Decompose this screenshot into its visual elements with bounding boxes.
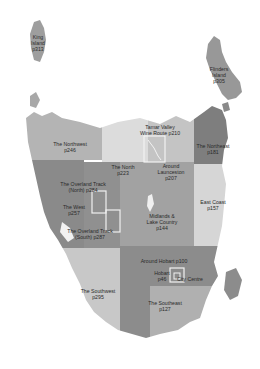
label-line: p181 xyxy=(197,149,230,155)
label-the-north: The North p223 xyxy=(111,164,134,176)
label-east-coast: East Coast p157 xyxy=(200,199,225,211)
label-line: p207 xyxy=(158,175,185,181)
label-overland-north: The Overland Track (North) p284 xyxy=(60,181,106,193)
islet xyxy=(30,92,40,108)
label-line: (South) p287 xyxy=(67,234,113,240)
label-hobart: Hobart p46 xyxy=(154,270,170,282)
label-line: p157 xyxy=(200,205,225,211)
islet xyxy=(224,268,242,300)
region-around-hobart-lower[interactable] xyxy=(120,286,150,346)
label-around-launceston: Around Launceston p207 xyxy=(158,163,185,181)
label-tamar-valley: Tamar Valley Wine Route p210 xyxy=(140,124,180,136)
label-line: p246 xyxy=(53,147,87,153)
label-line: p46 xyxy=(154,276,170,282)
label-line: Around Hobart p100 xyxy=(141,258,188,264)
label-line: p257 xyxy=(63,210,85,216)
label-city-centre: City Centre xyxy=(177,276,203,282)
label-line: (North) p284 xyxy=(60,187,106,193)
label-overland-south: The Overland Track (South) p287 xyxy=(67,228,113,240)
label-around-hobart: Around Hobart p100 xyxy=(141,258,188,264)
label-line: p305 xyxy=(210,78,228,84)
islet xyxy=(222,102,230,112)
label-line: p313 xyxy=(31,46,45,52)
label-line: p223 xyxy=(111,170,134,176)
label-line: p127 xyxy=(148,306,182,312)
label-northwest: The Northwest p246 xyxy=(53,141,87,153)
label-northeast: The Northeast p181 xyxy=(197,143,230,155)
label-flinders-island: Flinders Island p305 xyxy=(210,66,228,84)
label-midlands: Midlands & Lake Country p144 xyxy=(147,213,178,231)
label-king-island: King Island p313 xyxy=(31,34,45,52)
label-southeast: The Southeast p127 xyxy=(148,300,182,312)
label-the-west: The West p257 xyxy=(63,204,85,216)
label-line: Wine Route p210 xyxy=(140,130,180,136)
tasmania-map xyxy=(0,0,260,369)
label-southwest: The Southwest p295 xyxy=(81,288,116,300)
label-line: p295 xyxy=(81,294,116,300)
region-southeast[interactable] xyxy=(150,286,234,346)
label-line: City Centre xyxy=(177,276,203,282)
label-line: p144 xyxy=(147,225,178,231)
